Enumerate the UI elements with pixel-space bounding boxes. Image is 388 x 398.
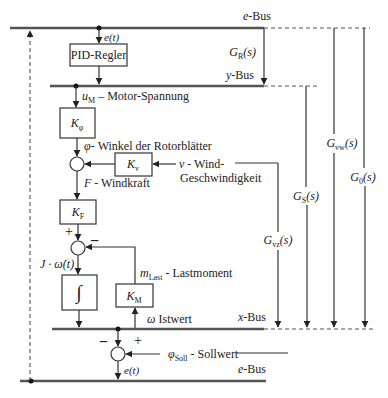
junction-dot-e-bus-bottom [29,379,34,384]
minus-sign-sum3: − [99,333,108,350]
x-bus-label: x-Bus [237,310,266,324]
v-label: v - Wind- [179,157,224,171]
g-0-label: G0(s) [350,170,375,186]
e-t-label-top: e(t) [104,31,120,44]
g-vz-label: Gvz(s) [264,233,293,249]
g-s-label: GS(s) [293,189,319,205]
wind-turbine-control-diagram: e-Bus e(t) PID-Regler y-Bus GR(s) uM – M… [0,0,388,398]
summing-junction-1 [70,157,84,171]
m-last-label: mLast - Lastmoment [140,266,233,282]
v-label-line2: Geschwindigkeit [180,171,262,185]
plus-sign-sum3: + [134,333,142,348]
summing-junction-3 [111,347,125,361]
y-bus-label: y-Bus [225,68,254,82]
plus-sign-sum2: + [65,224,73,239]
pid-controller-label: PID-Regler [71,48,126,62]
e-bus-top-label: e-Bus [243,9,271,23]
e-t-label-bottom: e(t) [124,364,140,377]
phi-soll-label: φSoll - Sollwert [168,347,239,363]
e-bus-bottom-label: e-Bus [238,362,266,376]
j-omega-dot-label: J · ω̇(t) [40,257,74,271]
u-m-label: uM – Motor-Spannung [82,89,189,105]
summing-junction-2 [71,241,85,255]
g-r-label: GR(s) [229,45,256,61]
phi-label: φ- Winkel der Rotorblätter [84,139,212,153]
g-vw-label: Gvw(s) [326,136,357,152]
omega-istwert-label: ω Istwert [147,312,192,326]
f-label: F - Windkraft [83,176,151,190]
